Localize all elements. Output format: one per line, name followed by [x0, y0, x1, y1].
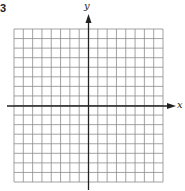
x-axis-label: x — [177, 99, 183, 110]
y-axis-arrow-icon — [86, 14, 92, 23]
y-axis-label: y — [84, 0, 90, 11]
coordinate-plane — [0, 0, 185, 191]
x-axis-arrow-icon — [167, 103, 176, 109]
